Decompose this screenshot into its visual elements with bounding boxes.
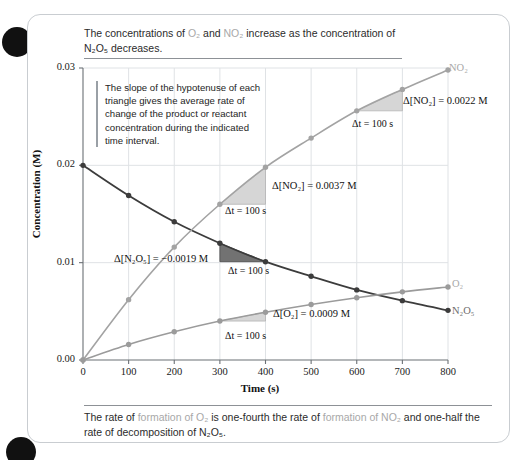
x-tick-400: 400	[248, 366, 284, 377]
series-label-n2o5: N₂O₅	[452, 305, 475, 316]
x-axis-title: Time (s)	[180, 382, 340, 394]
annotation-delta-n2o5-300: Δ[N₂O₅] = −0.0019 M	[114, 253, 208, 264]
x-tick-100: 100	[111, 366, 147, 377]
x-tick-0: 0	[65, 366, 101, 377]
y-tick-0.00: 0.00	[41, 353, 75, 364]
annotation-delta-no2-700: Δ[NO₂] = 0.0022 M	[403, 95, 488, 106]
annotation-dt-no2-300: Δt = 100 s	[225, 205, 266, 216]
series-label-o2: O₂	[452, 278, 463, 289]
annotation-dt-n2o5-300: Δt = 100 s	[228, 265, 269, 276]
annotation-delta-o2-300: Δ[O₂] = 0.0009 M	[273, 308, 350, 319]
x-tick-300: 300	[202, 366, 238, 377]
x-tick-800: 800	[430, 366, 466, 377]
chart-area: Concentration (M) Time (s) 0.000.010.020…	[0, 0, 523, 460]
y-tick-0.02: 0.02	[41, 158, 75, 169]
series-label-no2: NO₂	[449, 62, 468, 73]
screenshot-root: The concentrations of O₂ and NO₂ increas…	[0, 0, 523, 460]
y-axis-title: Concentration (M)	[30, 134, 42, 254]
x-tick-700: 700	[384, 366, 420, 377]
x-tick-500: 500	[293, 366, 329, 377]
annotation-dt-no2-700: Δt = 100 s	[352, 118, 393, 129]
annotation-delta-no2-300: Δ[NO₂] = 0.0037 M	[272, 180, 357, 191]
x-tick-600: 600	[339, 366, 375, 377]
annotation-dt-o2-300: Δt = 100 s	[225, 330, 266, 341]
y-tick-0.03: 0.03	[41, 61, 75, 72]
x-tick-200: 200	[156, 366, 192, 377]
slope-explanation-note: The slope of the hypotenuse of each tria…	[96, 81, 264, 147]
y-tick-0.01: 0.01	[41, 256, 75, 267]
